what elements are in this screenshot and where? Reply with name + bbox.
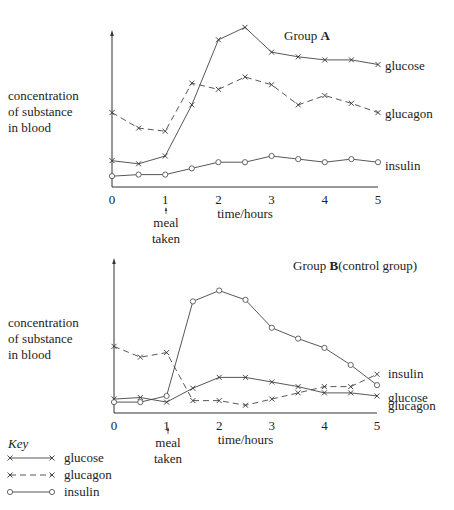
x-tick-label: 4 bbox=[321, 418, 328, 433]
y-axis-label: in blood bbox=[8, 120, 51, 135]
circle-marker-icon bbox=[136, 172, 141, 177]
cross-marker-icon bbox=[243, 74, 248, 79]
y-axis-arrow-icon bbox=[110, 30, 114, 36]
cross-marker-icon bbox=[375, 372, 380, 377]
cross-marker-icon bbox=[296, 102, 301, 107]
x-tick-label: 2 bbox=[216, 418, 223, 433]
chart-title: Group B(control group) bbox=[293, 258, 417, 273]
x-tick-label: 2 bbox=[215, 192, 222, 207]
circle-marker-icon bbox=[164, 393, 169, 398]
cross-marker-icon bbox=[349, 101, 354, 106]
x-tick-label: 0 bbox=[109, 192, 116, 207]
x-tick-label: 5 bbox=[374, 418, 381, 433]
chart-group-b: 012345time/hoursconcentrationof substanc… bbox=[8, 258, 436, 466]
chart-title: Group A bbox=[284, 28, 330, 43]
x-tick-label: 3 bbox=[269, 418, 276, 433]
series-line-glucose bbox=[114, 377, 377, 402]
cross-marker-icon bbox=[163, 154, 168, 159]
cross-marker-icon bbox=[296, 390, 301, 395]
cross-marker-icon bbox=[376, 110, 381, 115]
chart-key: Keyglucoseglucagoninsulin bbox=[7, 436, 112, 499]
series-line-glucagon bbox=[112, 77, 378, 131]
circle-marker-icon bbox=[269, 325, 274, 330]
circle-marker-icon bbox=[322, 160, 327, 165]
series-label-glucagon: glucagon bbox=[385, 106, 433, 121]
x-tick-label: 4 bbox=[322, 192, 329, 207]
cross-marker-icon bbox=[216, 37, 221, 42]
circle-marker-icon bbox=[375, 160, 380, 165]
cross-marker-icon bbox=[348, 384, 353, 389]
cross-marker-icon bbox=[269, 82, 274, 87]
meal-annotation: taken bbox=[152, 231, 181, 246]
circle-marker-icon bbox=[163, 172, 168, 177]
circle-marker-icon bbox=[109, 174, 114, 179]
circle-marker-icon bbox=[296, 336, 301, 341]
cross-marker-icon bbox=[243, 25, 248, 30]
circle-marker-icon bbox=[111, 400, 116, 405]
circle-marker-icon bbox=[296, 157, 301, 162]
key-label-glucose: glucose bbox=[64, 450, 104, 465]
circle-marker-icon bbox=[269, 153, 274, 158]
key-label-glucagon: glucagon bbox=[64, 467, 112, 482]
x-tick-label: 5 bbox=[375, 192, 382, 207]
x-axis-label: time/hours bbox=[217, 206, 273, 221]
series-line-glucose bbox=[112, 27, 378, 164]
key-title: Key bbox=[7, 436, 28, 451]
series-label-glucagon: glucagon bbox=[388, 398, 436, 413]
circle-marker-icon bbox=[217, 288, 222, 293]
cross-marker-icon bbox=[216, 87, 221, 92]
y-axis-label: of substance bbox=[8, 331, 73, 346]
cross-marker-icon bbox=[190, 386, 195, 391]
series-line-insulin bbox=[114, 291, 377, 403]
circle-marker-icon bbox=[322, 345, 327, 350]
meal-annotation: meal bbox=[155, 435, 181, 450]
circle-marker-icon bbox=[7, 489, 12, 494]
series-line-insulin bbox=[112, 156, 378, 176]
circle-marker-icon bbox=[189, 166, 194, 171]
y-axis-label: concentration bbox=[8, 88, 79, 103]
chart-group-a: 012345time/hoursconcentrationof substanc… bbox=[8, 25, 433, 246]
series-line-glucagon bbox=[114, 346, 377, 405]
y-axis-label: in blood bbox=[8, 347, 51, 362]
series-label-insulin: insulin bbox=[385, 158, 421, 173]
x-tick-label: 0 bbox=[111, 418, 118, 433]
y-axis-arrow-icon bbox=[112, 258, 116, 264]
circle-marker-icon bbox=[242, 160, 247, 165]
y-axis-label: of substance bbox=[8, 104, 73, 119]
x-axis-label: time/hours bbox=[218, 432, 274, 447]
meal-annotation: taken bbox=[154, 451, 183, 466]
circle-marker-icon bbox=[374, 383, 379, 388]
series-label-insulin: insulin bbox=[388, 366, 424, 381]
y-axis-label: concentration bbox=[8, 315, 79, 330]
circle-marker-icon bbox=[216, 160, 221, 165]
series-label-glucose: glucose bbox=[385, 58, 425, 73]
circle-marker-icon bbox=[243, 297, 248, 302]
circle-marker-icon bbox=[348, 362, 353, 367]
circle-marker-icon bbox=[349, 157, 354, 162]
meal-annotation: meal bbox=[153, 215, 179, 230]
x-tick-label: 3 bbox=[268, 192, 275, 207]
circle-marker-icon bbox=[190, 299, 195, 304]
cross-marker-icon bbox=[189, 102, 194, 107]
chart-canvas: 012345time/hoursconcentrationof substanc… bbox=[0, 0, 454, 510]
circle-marker-icon bbox=[138, 400, 143, 405]
key-label-insulin: insulin bbox=[64, 484, 100, 499]
x-tick-label: 1 bbox=[162, 192, 169, 207]
circle-marker-icon bbox=[49, 489, 54, 494]
